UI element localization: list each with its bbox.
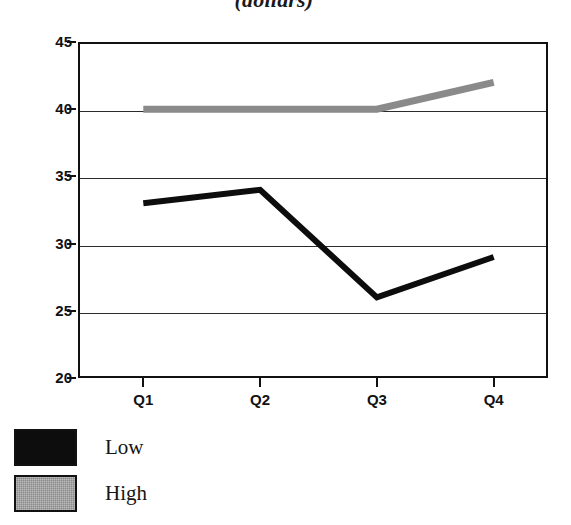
y-tick-label-25: 25 xyxy=(55,303,72,318)
x-tick-label-q1: Q1 xyxy=(113,392,173,407)
chart-title: (dollars) xyxy=(0,0,548,13)
legend-label-high: High xyxy=(105,483,147,504)
legend-label-low: Low xyxy=(105,437,144,458)
y-tick-label-20: 20 xyxy=(55,370,72,385)
legend-item-low: Low xyxy=(14,424,147,470)
gridline-25 xyxy=(80,313,546,314)
x-tick-label-q3: Q3 xyxy=(347,392,407,407)
x-tick-mark-q2 xyxy=(259,378,261,387)
x-tick-mark-q1 xyxy=(142,378,144,387)
legend-item-high: High xyxy=(14,470,147,516)
y-tick-label-35: 35 xyxy=(55,168,72,183)
x-tick-label-q2: Q2 xyxy=(230,392,290,407)
y-tick-label-30: 30 xyxy=(55,236,72,251)
x-tick-mark-q4 xyxy=(493,378,495,387)
gridline-40 xyxy=(80,111,546,112)
x-tick-mark-q3 xyxy=(376,378,378,387)
x-tick-label-q4: Q4 xyxy=(464,392,524,407)
plot-area xyxy=(78,42,548,378)
legend-swatch-high-icon xyxy=(14,475,77,512)
y-tick-label-45: 45 xyxy=(55,34,72,49)
gridline-30 xyxy=(80,246,546,247)
legend-swatch-low-icon xyxy=(14,429,77,466)
y-tick-label-40: 40 xyxy=(55,101,72,116)
gridline-35 xyxy=(80,178,546,179)
chart-legend: Low High xyxy=(14,424,147,516)
